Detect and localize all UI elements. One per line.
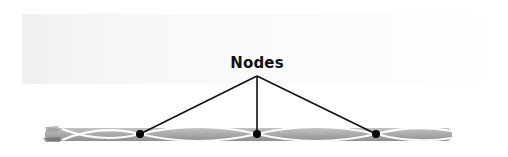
pointer-line-3 (257, 76, 376, 134)
diagram-canvas: Nodes (0, 0, 508, 157)
node-dot-2 (253, 130, 261, 138)
standing-wave-figure (0, 0, 508, 157)
nodes-label: Nodes (226, 54, 288, 72)
pointer-line-1 (140, 76, 257, 134)
pointer-lines (140, 76, 376, 134)
node-dot-1 (136, 130, 144, 138)
node-dot-3 (372, 130, 380, 138)
vibrating-string (43, 126, 452, 142)
